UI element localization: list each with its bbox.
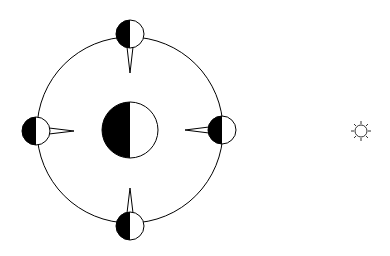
moon-right — [185, 116, 236, 144]
spike-up — [127, 188, 133, 213]
moon-top — [116, 20, 144, 73]
spike-down — [127, 47, 133, 73]
sun-icon — [351, 121, 371, 141]
spike-right — [49, 128, 74, 134]
moon-left — [22, 117, 74, 145]
planet-earth — [102, 102, 158, 158]
moon-bottom — [116, 188, 144, 240]
spike-left — [185, 127, 209, 133]
moon-phase-diagram — [0, 0, 390, 256]
